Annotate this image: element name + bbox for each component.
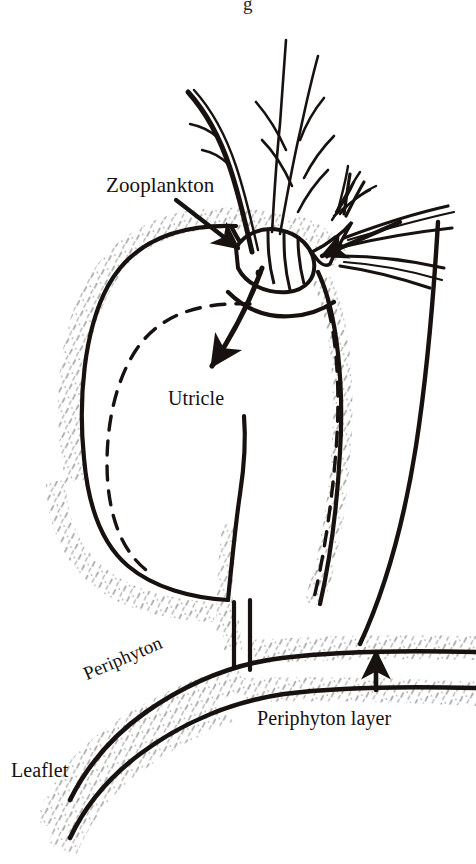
utricle-diagram: Zooplankton Utricle Periphyton Periphyto… xyxy=(0,0,476,864)
label-zooplankton: Zooplankton xyxy=(106,175,214,196)
cropped-caption-fragment: g xyxy=(243,0,253,15)
label-utricle: Utricle xyxy=(168,388,224,408)
label-periphyton-layer: Periphyton layer xyxy=(257,708,391,728)
intake-arrow xyxy=(212,268,262,366)
diagram-canvas xyxy=(0,0,476,864)
label-leaflet: Leaflet xyxy=(11,760,68,780)
